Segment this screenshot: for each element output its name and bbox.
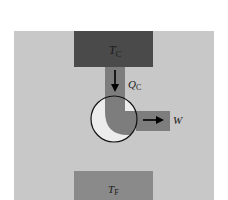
heat-engine-diagram: TC QC W TF: [0, 0, 228, 200]
heat-in-subscript: C: [136, 83, 141, 92]
work-output-channel: [136, 111, 170, 131]
heat-in-symbol: Q: [128, 78, 136, 90]
cold-reservoir-subscript: F: [114, 188, 119, 197]
work-out-label: W: [173, 114, 183, 126]
hot-reservoir-subscript: C: [116, 50, 121, 59]
